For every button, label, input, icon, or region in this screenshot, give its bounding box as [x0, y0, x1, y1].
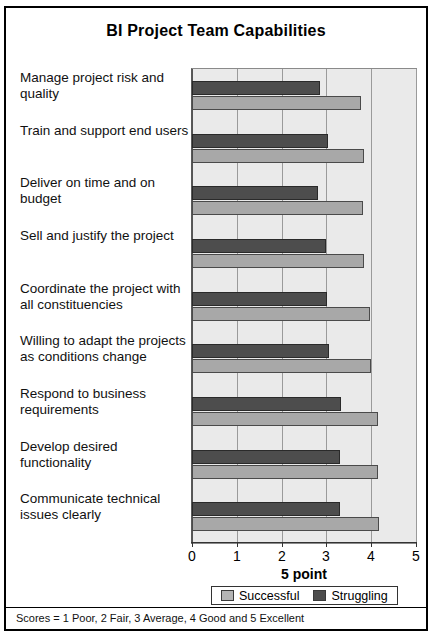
x-tick-label: 1 — [222, 548, 252, 564]
legend-swatch-icon — [221, 590, 234, 601]
bar-struggling — [192, 450, 340, 464]
bar-successful — [192, 359, 371, 373]
chart-legend: SuccessfulStruggling — [211, 586, 398, 605]
gridline-5 — [416, 69, 417, 543]
bar-row — [192, 96, 416, 110]
bar-successful — [192, 412, 378, 426]
bar-successful — [192, 96, 361, 110]
bar-successful — [192, 307, 370, 321]
bar-row — [192, 412, 416, 426]
legend-label: Successful — [239, 589, 299, 603]
bar-struggling — [192, 81, 320, 95]
bar-successful — [192, 201, 363, 215]
bar-successful — [192, 465, 378, 479]
bar-row — [192, 292, 416, 306]
bar-row — [192, 344, 416, 358]
bar-row — [192, 307, 416, 321]
x-axis-ticks: 012345 — [191, 543, 417, 563]
x-tick — [192, 543, 193, 547]
x-tick — [326, 543, 327, 547]
chart-figure: BI Project Team Capabilities Manage proj… — [4, 6, 428, 631]
category-label: Coordinate the project with all constitu… — [20, 281, 192, 313]
bar-row — [192, 465, 416, 479]
category-label: Communicate technical issues clearly — [20, 491, 192, 523]
x-axis-title: 5 point — [191, 566, 417, 582]
bar-struggling — [192, 397, 341, 411]
category-axis-labels: Manage project risk and qualityTrain and… — [20, 64, 190, 540]
x-tick — [282, 543, 283, 547]
category-label: Train and support end users — [20, 123, 192, 139]
plot-area — [191, 68, 417, 544]
plot-wrapper: Manage project risk and qualityTrain and… — [6, 64, 426, 546]
legend-label: Struggling — [331, 589, 387, 603]
category-label: Willing to adapt the projects as conditi… — [20, 333, 192, 365]
bar-row — [192, 450, 416, 464]
bar-row — [192, 359, 416, 373]
category-label: Sell and justify the project — [20, 228, 192, 244]
bar-struggling — [192, 292, 327, 306]
bar-successful — [192, 517, 379, 531]
bar-successful — [192, 254, 364, 268]
bar-row — [192, 397, 416, 411]
footnote-text: Scores = 1 Poor, 2 Fair, 3 Average, 4 Go… — [16, 612, 304, 624]
bar-struggling — [192, 186, 318, 200]
category-label: Deliver on time and on budget — [20, 175, 192, 207]
bar-row — [192, 134, 416, 148]
x-tick-label: 0 — [177, 548, 207, 564]
x-tick-label: 2 — [267, 548, 297, 564]
footnote-divider — [6, 607, 426, 608]
chart-title: BI Project Team Capabilities — [6, 22, 426, 40]
legend-item: Struggling — [313, 589, 387, 603]
category-label: Develop desired functionality — [20, 439, 192, 471]
bar-successful — [192, 149, 364, 163]
bar-row — [192, 517, 416, 531]
x-tick — [237, 543, 238, 547]
bar-struggling — [192, 134, 328, 148]
legend-swatch-icon — [313, 590, 326, 601]
x-tick — [371, 543, 372, 547]
bar-row — [192, 81, 416, 95]
bar-row — [192, 254, 416, 268]
x-tick-label: 5 — [401, 548, 431, 564]
legend-item: Successful — [221, 589, 299, 603]
bar-row — [192, 149, 416, 163]
category-label: Manage project risk and quality — [20, 70, 192, 102]
category-label: Respond to business requirements — [20, 386, 192, 418]
bar-struggling — [192, 502, 340, 516]
bar-row — [192, 201, 416, 215]
bar-struggling — [192, 239, 326, 253]
bar-struggling — [192, 344, 329, 358]
bar-row — [192, 239, 416, 253]
x-tick-label: 3 — [311, 548, 341, 564]
x-tick — [416, 543, 417, 547]
bar-row — [192, 502, 416, 516]
x-tick-label: 4 — [356, 548, 386, 564]
bar-row — [192, 186, 416, 200]
